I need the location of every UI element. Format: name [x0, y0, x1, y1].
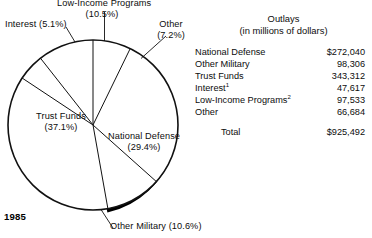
- slice-label-other-military: Other Military (10.6%): [110, 221, 202, 232]
- slice-label-low-income-line1: Low-Income Programs: [57, 0, 151, 8]
- table-row: National Defense $272,040: [195, 47, 365, 59]
- slice-label-low-income-line2: (10.5%): [57, 9, 147, 20]
- table-row: Other 66,684: [195, 107, 365, 119]
- outlays-subtitle: (in millions of dollars): [195, 25, 372, 37]
- slice-label-interest: Interest (5.1%): [5, 19, 67, 30]
- row-label-trust-funds: Trust Funds: [195, 71, 316, 83]
- slice-label-other-line1: Other: [159, 19, 182, 29]
- slice-label-trust-line1: Trust Funds: [36, 111, 86, 121]
- table-row: Other Military 98,306: [195, 59, 365, 71]
- row-value-national-defense: $272,040: [316, 47, 365, 59]
- row-label-low-income-text: Low-Income Programs: [195, 95, 287, 105]
- pie-chart-area: Low-Income Programs (10.5%) Interest (5.…: [0, 0, 200, 238]
- footnote-marker-2: 2: [287, 94, 290, 100]
- row-value-low-income-programs: 97,533: [316, 95, 365, 107]
- row-label-other-military: Other Military: [195, 59, 316, 71]
- outlays-table-heading: Outlays (in millions of dollars): [195, 13, 372, 36]
- chart-year-label: 1985: [4, 211, 26, 222]
- row-label-interest: Interest1: [195, 83, 316, 95]
- slice-label-defense-line1: National Defense: [108, 131, 180, 141]
- table-row: Low-Income Programs2 97,533: [195, 95, 365, 107]
- row-label-total: Total: [195, 119, 316, 139]
- slice-label-other: Other (7.2%): [148, 19, 194, 41]
- row-value-trust-funds: 343,312: [316, 71, 365, 83]
- outlays-table-body: National Defense $272,040 Other Military…: [195, 47, 365, 139]
- row-value-interest: 47,617: [316, 83, 365, 95]
- slice-label-defense-line2: (29.4%): [98, 142, 190, 153]
- table-row-total: Total $925,492: [195, 119, 365, 139]
- slice-label-other-military-line1: Other Military (10.6%): [110, 221, 202, 231]
- row-label-national-defense: National Defense: [195, 47, 316, 59]
- row-value-other-military: 98,306: [316, 59, 365, 71]
- outlays-title: Outlays: [268, 13, 300, 24]
- table-row: Interest1 47,617: [195, 83, 365, 95]
- outlays-table: National Defense $272,040 Other Military…: [195, 47, 365, 139]
- slice-label-interest-line1: Interest (5.1%): [5, 19, 67, 29]
- figure-pie-chart-outlays-1985: Low-Income Programs (10.5%) Interest (5.…: [0, 0, 372, 238]
- table-row: Trust Funds 343,312: [195, 71, 365, 83]
- slice-label-trust-line2: (37.1%): [22, 122, 100, 133]
- row-label-other: Other: [195, 107, 316, 119]
- leader-line-interest: [66, 27, 75, 42]
- footnote-marker-1: 1: [226, 82, 229, 88]
- row-value-other: 66,684: [316, 107, 365, 119]
- slice-label-national-defense: National Defense (29.4%): [98, 131, 190, 153]
- row-label-low-income-programs: Low-Income Programs2: [195, 95, 316, 107]
- slice-label-trust-funds: Trust Funds (37.1%): [22, 111, 100, 133]
- slice-label-low-income-programs: Low-Income Programs (10.5%): [57, 0, 147, 20]
- row-label-interest-text: Interest: [195, 83, 226, 93]
- outlays-table-panel: Outlays (in millions of dollars) Nationa…: [195, 13, 372, 158]
- row-value-total: $925,492: [316, 119, 365, 139]
- slice-label-other-line2: (7.2%): [148, 30, 194, 41]
